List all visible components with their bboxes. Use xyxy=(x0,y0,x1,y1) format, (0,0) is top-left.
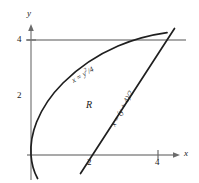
region-label: R xyxy=(86,100,92,110)
parabola-curve xyxy=(31,33,167,179)
x-tick-label-4: 4 xyxy=(155,158,160,167)
x-axis-arrow xyxy=(173,152,180,157)
y-tick-label-2: 2 xyxy=(17,91,22,100)
figure-canvas xyxy=(0,0,199,183)
y-axis-label: y xyxy=(27,9,31,18)
x-axis-label: x xyxy=(184,149,188,158)
y-axis-arrow xyxy=(28,24,34,31)
math-figure: y x 4 2 2 4 R x = y2/4 x = (y + 4)/2 xyxy=(0,0,199,183)
y-tick-label-4: 4 xyxy=(17,35,22,44)
x-tick-label-2: 2 xyxy=(87,158,92,167)
